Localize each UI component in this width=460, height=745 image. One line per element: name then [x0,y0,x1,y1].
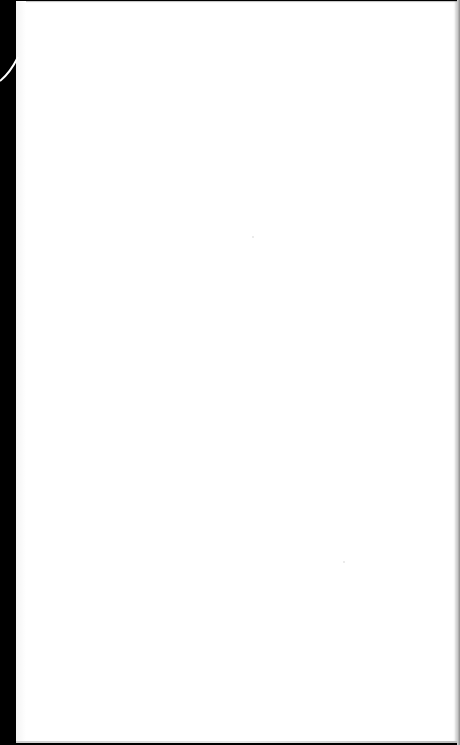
sheet-bottom-edge [16,741,457,743]
blank-sheet [16,1,457,743]
speck [343,561,345,563]
paper-curl-icon [0,55,20,83]
speck [252,236,254,238]
sheet-left-edge [16,1,26,743]
photo-scene [0,0,460,745]
